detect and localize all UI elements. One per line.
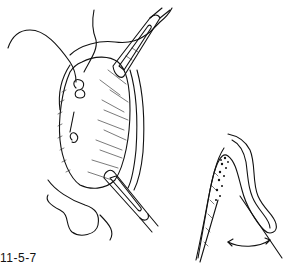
figure: 11-5-7 <box>0 0 290 263</box>
inset-cross-section-illustration <box>0 0 290 263</box>
figure-caption: 11-5-7 <box>0 252 37 263</box>
angle-arc <box>228 240 270 246</box>
